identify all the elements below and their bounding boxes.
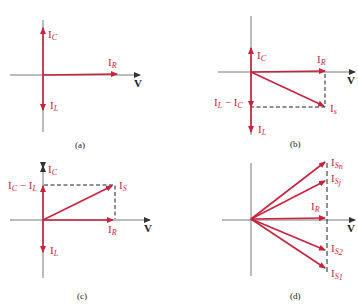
ic-label: IC [257, 49, 267, 63]
is1-label: IS1 [331, 267, 343, 282]
panel-a: IC IR IL V (a) [10, 20, 142, 150]
is1-vector [251, 219, 325, 268]
panel-b: IC IR IL − IC IL Is V (b) [214, 16, 355, 149]
ir-label: IR [108, 223, 117, 237]
is2-vector [251, 219, 325, 250]
il-minus-ic-label: IL − IC [214, 96, 244, 110]
caption-d: (d) [290, 291, 301, 301]
caption-c: (c) [77, 291, 87, 301]
is-vector [43, 186, 112, 220]
ir-vector [251, 218, 325, 219]
panel-c: IC IC − IL IS IR IL V (c) [8, 163, 152, 301]
ir-vector [251, 71, 325, 72]
v-label: V [134, 77, 142, 89]
ir-label: IR [311, 200, 320, 214]
phasor-diagrams: IC IR IL V (a) IC IR IL − IC IL Is V (b)… [0, 0, 358, 304]
il-label: IL [50, 99, 59, 113]
ic-label: IC [48, 28, 58, 42]
is-label: IS [119, 179, 127, 193]
il-label: IL [50, 244, 59, 258]
is2-label: IS2 [331, 242, 343, 257]
panel-d: ISn ISj IR IS2 IS1 V (d) [222, 156, 355, 301]
ir-vector [43, 74, 117, 75]
ic-label: IC [48, 163, 58, 177]
v-label: V [347, 74, 355, 86]
is-label: Is [330, 102, 337, 116]
il-label: IL [258, 123, 267, 137]
isj-label: ISj [331, 172, 342, 187]
isn-label: ISn [331, 156, 343, 171]
v-label: V [347, 222, 355, 234]
caption-b: (b) [290, 139, 301, 149]
v-label: V [144, 222, 152, 234]
ir-label: IR [108, 56, 117, 70]
caption-a: (a) [75, 140, 85, 150]
is-vector [251, 72, 324, 106]
ir-label: IR [317, 53, 326, 67]
ic-minus-il-label: IC − IL [8, 179, 37, 193]
